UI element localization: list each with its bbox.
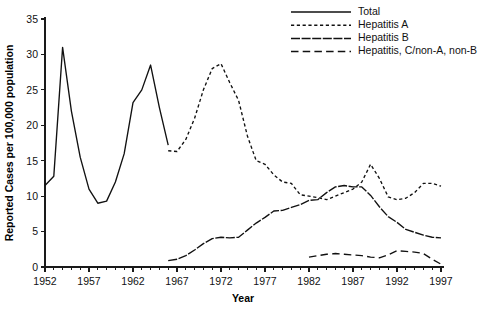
y-axis-title: Reported Cases per 100,000 population	[3, 45, 15, 242]
y-tick-label: 25	[26, 84, 38, 96]
x-axis-title: Year	[232, 292, 254, 304]
x-tick-label: 1997	[429, 275, 453, 287]
series-line-hepatitis-c-non-a-non-b	[309, 251, 441, 264]
x-tick-label: 1992	[385, 275, 409, 287]
series-group	[45, 47, 441, 264]
y-axis-group: 05101520253035 Reported Cases per 100,00…	[3, 13, 45, 273]
y-tick-label: 15	[26, 155, 38, 167]
y-tick-label: 35	[26, 13, 38, 25]
y-tick-label: 10	[26, 190, 38, 202]
chart-svg: 05101520253035 Reported Cases per 100,00…	[0, 0, 485, 313]
legend-label-3: Hepatitis B	[358, 31, 409, 43]
y-tick-label: 30	[26, 48, 38, 60]
chart-legend: TotalHepatitis AHepatitis BHepatitis, C/…	[291, 5, 477, 57]
y-tick-label: 20	[26, 119, 38, 131]
x-tick-label: 1967	[165, 275, 189, 287]
x-tick-label: 1952	[33, 275, 57, 287]
x-tick-label: 1972	[209, 275, 233, 287]
legend-label-2: Hepatitis A	[358, 18, 408, 30]
y-tick-label: 5	[32, 225, 38, 237]
series-line-hepatitis-a	[168, 64, 441, 200]
x-tick-label: 1987	[341, 275, 365, 287]
series-line-total	[45, 47, 168, 203]
x-tick-group: 1952195719621967197219771982198719921997	[33, 267, 453, 287]
x-tick-label: 1962	[121, 275, 145, 287]
x-tick-label: 1977	[253, 275, 277, 287]
y-tick-group: 05101520253035	[26, 13, 45, 273]
hepatitis-incidence-chart: 05101520253035 Reported Cases per 100,00…	[0, 0, 485, 313]
legend-label-1: Total	[358, 5, 380, 17]
x-tick-label: 1982	[297, 275, 321, 287]
legend-label-4: Hepatitis, C/non-A, non-B	[358, 44, 477, 56]
x-axis-group: 1952195719621967197219771982198719921997…	[33, 267, 453, 304]
y-tick-label: 0	[32, 261, 38, 273]
series-line-hepatitis-b	[168, 186, 441, 261]
x-tick-label: 1957	[77, 275, 101, 287]
